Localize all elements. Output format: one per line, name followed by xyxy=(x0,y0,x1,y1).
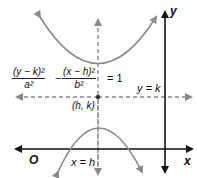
y-equals-k-label: y = k xyxy=(136,83,162,94)
equation-minus: − xyxy=(55,73,61,84)
equation-term-1: (y − k)² a² xyxy=(12,67,45,90)
origin-label: O xyxy=(29,154,38,166)
term-1-denominator: a² xyxy=(12,79,45,90)
equation-equals: = 1 xyxy=(106,73,124,84)
equation-term-2: (x − h)² b² xyxy=(62,67,96,90)
x-equals-h-label: x = h xyxy=(70,157,96,168)
hyperbola-diagram: (y − k)² a² − (x − h)² b² = 1 y x O (h, … xyxy=(0,0,197,178)
y-axis-label: y xyxy=(170,5,177,17)
center-label: (h, k) xyxy=(72,101,95,111)
center-point xyxy=(96,95,100,99)
term-2-numerator: (x − h)² xyxy=(62,67,96,79)
x-axis-label: x xyxy=(184,155,191,167)
term-2-denominator: b² xyxy=(62,79,96,90)
term-1-numerator: (y − k)² xyxy=(12,67,45,79)
